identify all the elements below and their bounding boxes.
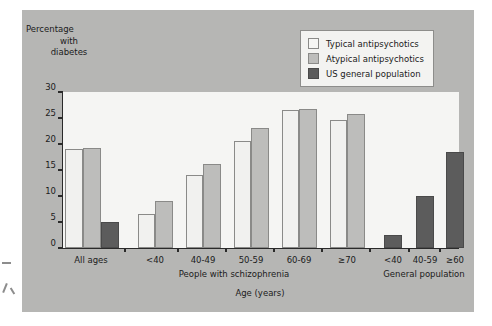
y-axis-tick <box>58 91 63 93</box>
bar <box>299 109 317 248</box>
bar <box>65 149 83 248</box>
bar <box>138 214 156 248</box>
y-axis-tick <box>58 221 63 223</box>
x-axis-tick-label: 40-49 <box>191 255 216 265</box>
y-axis-tick-label: 20 <box>45 134 56 144</box>
bar <box>83 148 101 248</box>
bar <box>416 196 434 248</box>
x-axis-tick-label: All ages <box>74 255 108 265</box>
legend-swatch-icon <box>308 53 319 64</box>
legend-swatch-icon <box>308 68 319 79</box>
bar <box>384 235 402 248</box>
x-axis-tick-label: <40 <box>146 255 164 265</box>
x-axis-tick <box>177 248 179 252</box>
x-axis-tick-label: <40 <box>384 255 402 265</box>
x-axis-tick <box>124 248 126 252</box>
edge-mark-icon <box>2 262 11 264</box>
y-axis-tick-label: 30 <box>45 82 56 92</box>
bar <box>101 222 119 248</box>
bar <box>186 175 204 248</box>
y-axis-tick-label: 10 <box>45 186 56 196</box>
x-axis-tick <box>225 248 227 252</box>
legend-item: Atypical antipsychotics <box>308 51 424 66</box>
legend-item: Typical antipsychotics <box>308 36 424 51</box>
y-axis-tick <box>58 195 63 197</box>
edge-mark-icon <box>10 288 15 295</box>
x-axis-tick-label: 60-69 <box>287 255 312 265</box>
group-caption: People with schizophrenia <box>179 269 289 279</box>
x-axis-tick <box>321 248 323 252</box>
y-axis-tick <box>58 143 63 145</box>
legend-item-label: Atypical antipsychotics <box>326 54 424 64</box>
bar <box>155 201 173 248</box>
bar <box>203 164 221 248</box>
y-axis-title: Percentage with diabetes <box>26 24 112 59</box>
y-axis-tick-label: 15 <box>45 160 56 170</box>
bar <box>234 141 252 248</box>
legend-swatch-icon <box>308 38 319 49</box>
x-axis-title: Age (years) <box>235 288 284 298</box>
bar <box>347 114 365 248</box>
y-axis-tick-label: 0 <box>51 238 56 248</box>
y-axis-title-line-1: Percentage <box>26 24 112 36</box>
y-axis-title-line-2: with <box>26 36 112 48</box>
legend-item-label: Typical antipsychotics <box>326 39 419 49</box>
plot-area: 051015202530 All ages<4040-4950-5960-69≥… <box>62 92 459 249</box>
x-axis-tick-label: 50-59 <box>239 255 264 265</box>
y-axis-tick <box>58 169 63 171</box>
legend-item: US general population <box>308 66 424 81</box>
x-axis-tick <box>439 248 441 252</box>
chart-legend: Typical antipsychoticsAtypical antipsych… <box>300 30 434 87</box>
x-axis-tick-label: ≥60 <box>446 255 464 265</box>
bar <box>330 120 348 248</box>
edge-mark-icon <box>2 283 8 293</box>
legend-item-label: US general population <box>326 69 421 79</box>
x-axis-tick-label: ≥70 <box>338 255 356 265</box>
group-caption: General population <box>383 269 464 279</box>
x-axis-tick <box>273 248 275 252</box>
x-axis-tick <box>369 248 371 252</box>
x-axis-tick <box>408 248 410 252</box>
bar <box>251 128 269 248</box>
x-axis-tick-label: 40-59 <box>413 255 438 265</box>
bar <box>446 152 464 248</box>
y-axis-tick <box>58 117 63 119</box>
bar <box>282 110 300 248</box>
y-axis-tick-label: 25 <box>45 108 56 118</box>
y-axis-tick-label: 5 <box>51 212 56 222</box>
y-axis-title-line-3: diabetes <box>26 47 112 59</box>
y-axis-tick <box>58 247 63 249</box>
figure: Percentage with diabetes 051015202530 Al… <box>0 0 492 326</box>
